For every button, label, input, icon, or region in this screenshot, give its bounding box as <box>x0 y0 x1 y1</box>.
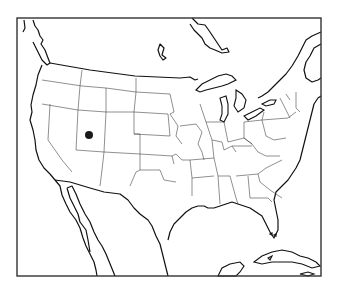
coastlines <box>23 18 321 276</box>
yucatan <box>218 262 244 276</box>
cuba <box>254 250 320 268</box>
great-lakes <box>196 74 276 122</box>
caribbean <box>218 233 320 276</box>
location-marker <box>85 131 93 139</box>
us-locator-map <box>0 0 339 290</box>
state-borders <box>42 70 300 204</box>
